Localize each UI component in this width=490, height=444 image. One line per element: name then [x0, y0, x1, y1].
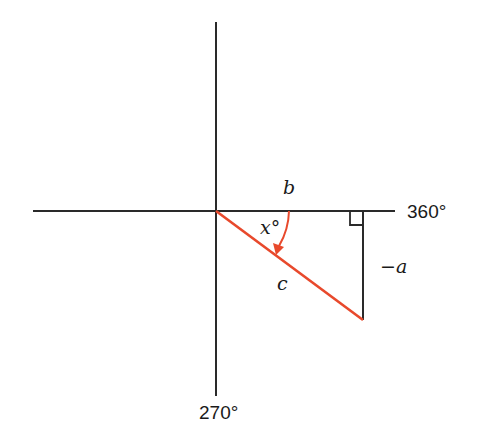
trig-diagram: b x° c −a 360° 270°	[0, 0, 490, 444]
positive-x-axis-label: 360°	[407, 201, 446, 222]
hypotenuse-label: c	[277, 272, 288, 294]
hypotenuse	[216, 211, 363, 320]
negative-y-axis-label: 270°	[199, 402, 238, 423]
opposite-label: −a	[380, 255, 407, 277]
right-angle-marker	[350, 211, 363, 225]
adjacent-label: b	[283, 176, 295, 198]
angle-label: x°	[260, 216, 280, 238]
angle-arc	[279, 211, 289, 246]
